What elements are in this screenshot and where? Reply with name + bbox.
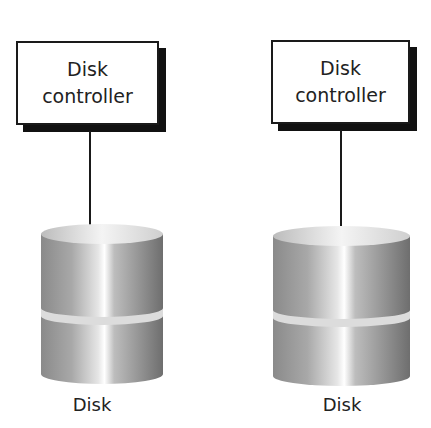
connector-line-left — [89, 131, 91, 227]
controller-label-line1: Disk — [320, 55, 361, 82]
disk-label-left: Disk — [22, 394, 162, 415]
disk-controller-box-left: Disk controller — [16, 41, 159, 125]
controller-label-line1: Disk — [67, 56, 108, 83]
disk-cylinder-icon-right — [273, 224, 410, 388]
disk-cylinder-icon-left — [41, 222, 163, 386]
connector-line-right — [340, 130, 342, 228]
controller-label-line2: controller — [42, 83, 133, 110]
disk-controller-box-right: Disk controller — [271, 40, 410, 124]
controller-label-line2: controller — [295, 82, 386, 109]
disk-label-right: Disk — [272, 394, 412, 415]
